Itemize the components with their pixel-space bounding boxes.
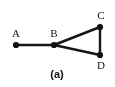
node-c-dot xyxy=(97,24,103,30)
node-label-d: D xyxy=(95,60,107,71)
edge-b-c xyxy=(54,27,100,45)
node-label-c: C xyxy=(95,10,107,21)
figure-caption: (a) xyxy=(45,69,69,80)
node-b-dot xyxy=(51,42,57,48)
node-label-b: B xyxy=(48,28,60,39)
node-a-dot xyxy=(13,42,19,48)
node-label-a: A xyxy=(10,28,22,39)
edge-b-d xyxy=(54,45,100,55)
node-d-dot xyxy=(97,52,103,58)
figure-container: A B C D (a) xyxy=(0,0,115,87)
